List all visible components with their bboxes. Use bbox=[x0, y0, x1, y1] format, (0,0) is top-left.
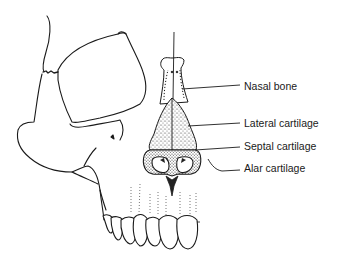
leader-lateral-cartilage bbox=[188, 123, 240, 126]
leader-septal-cartilage bbox=[195, 147, 240, 150]
leader-lines bbox=[0, 0, 338, 261]
label-lateral-cartilage: Lateral cartilage bbox=[244, 117, 319, 129]
label-nasal-bone: Nasal bone bbox=[244, 80, 297, 92]
label-alar-cartilage: Alar cartilage bbox=[244, 162, 305, 174]
leader-nasal-bone bbox=[182, 85, 240, 89]
leader-alar-cartilage bbox=[208, 159, 240, 171]
label-septal-cartilage: Septal cartilage bbox=[244, 140, 316, 152]
nasal-anatomy-diagram: Nasal bone Lateral cartilage Septal cart… bbox=[0, 0, 338, 261]
